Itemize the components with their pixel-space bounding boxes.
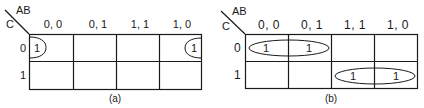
row-header: 0 [234,41,241,55]
row-header: 0 [20,42,26,54]
karnaugh-map-a: AB C 0, 0 0, 1 1, 1 1, 0 0 1 1 1 (a) [0,0,212,108]
row-variable-label: C [6,18,14,30]
column-variable-label: AB [16,4,31,16]
caption: (b) [316,93,346,104]
column-header: 1, 1 [125,18,155,30]
cell-value: 1 [303,42,315,54]
row-header: 1 [20,69,26,81]
cell-value: 1 [347,70,359,82]
column-header: 1, 0 [381,18,415,32]
column-variable-label: AB [232,5,247,17]
column-header: 0, 0 [252,18,286,32]
row-variable-label: C [222,20,230,32]
cell-value: 1 [188,42,200,54]
column-header: 0, 1 [83,18,113,30]
column-header: 0, 0 [38,18,68,30]
column-header: 1, 1 [338,18,372,32]
column-header: 0, 1 [295,18,329,32]
column-header: 1, 0 [167,18,197,30]
caption: (a) [100,93,130,104]
kmap-a-grid [0,0,212,108]
row-header: 1 [234,68,241,82]
cell-value: 1 [390,70,402,82]
cell-value: 1 [31,42,43,54]
cell-value: 1 [260,42,272,54]
karnaugh-map-b: AB C 0, 0 0, 1 1, 1 1, 0 0 1 1 1 1 1 (b) [212,0,424,108]
